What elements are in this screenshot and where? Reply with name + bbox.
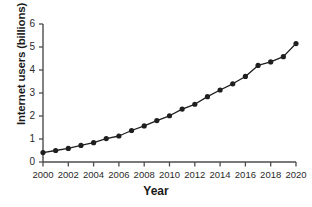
data-series-line	[43, 44, 296, 153]
y-axis-tick-label: 0	[21, 156, 35, 167]
y-axis-title: Internet users (billions)	[15, 0, 27, 139]
x-axis-tick-label: 2020	[281, 169, 311, 180]
chart-axes	[39, 24, 296, 167]
data-series-markers	[40, 41, 298, 155]
internet-users-line-chart: 0123456 20002002200420062008201020122014…	[0, 0, 312, 207]
x-axis-title: Year	[0, 184, 312, 198]
